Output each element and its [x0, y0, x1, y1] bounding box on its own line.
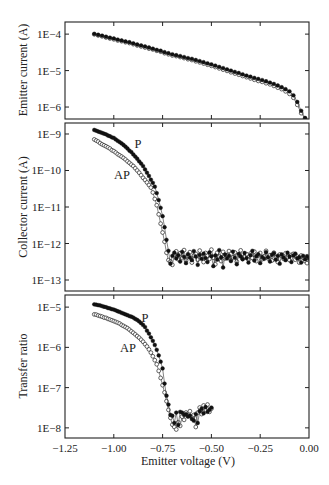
series-line-p — [94, 34, 305, 118]
data-point-ap — [198, 249, 202, 253]
data-point-p — [288, 89, 292, 93]
data-point-p — [231, 250, 235, 254]
data-point-p — [256, 252, 260, 256]
series-markers-p — [92, 32, 307, 120]
data-point-p — [182, 55, 186, 59]
data-point-p — [194, 58, 198, 62]
data-point-p — [291, 93, 295, 97]
data-point-p — [297, 255, 301, 259]
data-point-p — [210, 62, 214, 66]
y-axis-title-collector-current: Collector current (A) — [16, 156, 30, 257]
data-point-p — [116, 38, 120, 42]
data-point-p — [280, 85, 284, 89]
data-point-p — [276, 254, 280, 258]
x-tick-label: −0.25 — [247, 442, 273, 454]
data-point-ap — [219, 259, 223, 263]
data-point-p — [143, 45, 147, 49]
data-point-p — [301, 254, 305, 258]
data-point-p — [104, 35, 108, 39]
data-point-p — [198, 253, 202, 257]
y-tick-label: 1E−8 — [37, 422, 61, 434]
data-point-p — [139, 44, 143, 48]
data-point-ap — [174, 428, 178, 432]
data-point-p — [204, 256, 208, 260]
data-point-p — [260, 78, 264, 82]
data-point-p — [174, 411, 178, 415]
data-point-p — [108, 36, 112, 40]
y-tick-label: 1E−6 — [37, 341, 61, 353]
data-point-p — [170, 52, 174, 56]
data-point-p — [163, 50, 167, 54]
data-point-p — [155, 191, 159, 195]
data-point-p — [165, 394, 169, 398]
data-point-p — [120, 39, 124, 43]
x-tick-label: −0.50 — [199, 442, 225, 454]
data-point-p — [227, 254, 231, 258]
data-point-ap — [188, 409, 192, 413]
series-annotation-p: P — [135, 137, 142, 151]
data-point-p — [184, 261, 188, 265]
panel-transfer-ratio: −1.25−1.00−0.75−0.50−0.250.001E−51E−61E−… — [37, 295, 319, 454]
data-point-p — [210, 254, 214, 258]
data-point-p — [174, 53, 178, 57]
x-tick-label: 0.00 — [299, 442, 319, 454]
data-point-p — [128, 40, 132, 44]
data-point-p — [151, 181, 155, 185]
data-point-p — [243, 251, 247, 255]
data-point-p — [159, 206, 163, 210]
data-point-p — [182, 255, 186, 259]
data-point-p — [124, 40, 128, 44]
series-annotation-p: P — [142, 311, 149, 325]
data-point-p — [247, 261, 251, 265]
data-point-p — [229, 69, 233, 73]
data-point-p — [219, 255, 223, 259]
data-point-p — [208, 251, 212, 255]
data-point-p — [186, 252, 190, 256]
data-point-p — [252, 76, 256, 80]
data-point-p — [202, 60, 206, 64]
data-point-p — [194, 255, 198, 259]
data-point-p — [194, 412, 198, 416]
data-point-p — [192, 419, 196, 423]
data-point-ap — [151, 191, 155, 195]
data-point-p — [215, 258, 219, 262]
data-point-p — [237, 71, 241, 75]
y-axis-title-emitter-current: Emitter current (A) — [16, 24, 30, 117]
data-point-p — [299, 261, 303, 265]
data-point-p — [159, 360, 163, 364]
data-point-p — [258, 261, 262, 265]
series-markers-ap — [92, 138, 311, 267]
data-point-ap — [161, 231, 165, 235]
data-point-p — [286, 251, 290, 255]
data-point-p — [278, 262, 282, 266]
data-point-p — [190, 258, 194, 262]
data-point-p — [245, 74, 249, 78]
data-point-p — [211, 264, 215, 268]
data-point-p — [245, 256, 249, 260]
data-point-p — [293, 252, 297, 256]
data-point-ap — [153, 358, 157, 362]
data-point-p — [167, 249, 171, 253]
plot-area — [92, 32, 307, 121]
y-tick-label: 1E−11 — [32, 201, 61, 213]
data-point-p — [151, 339, 155, 343]
data-point-ap — [153, 197, 157, 201]
data-point-p — [264, 250, 268, 254]
data-point-ap — [149, 186, 153, 190]
data-point-p — [147, 332, 151, 336]
data-point-p — [163, 225, 167, 229]
data-point-p — [266, 255, 270, 259]
panel-emitter-current: 1E−41E−51E−6 — [37, 22, 309, 121]
y-tick-label: 1E−7 — [37, 382, 61, 394]
data-point-p — [157, 354, 161, 358]
data-point-p — [161, 367, 165, 371]
data-point-p — [221, 266, 225, 270]
data-point-p — [147, 174, 151, 178]
y-tick-label: 1E−5 — [37, 301, 61, 313]
series-markers-ap — [92, 32, 307, 120]
data-point-p — [153, 343, 157, 347]
data-point-ap — [151, 354, 155, 358]
data-point-p — [206, 260, 210, 264]
data-point-p — [100, 34, 104, 38]
data-point-p — [264, 79, 268, 83]
